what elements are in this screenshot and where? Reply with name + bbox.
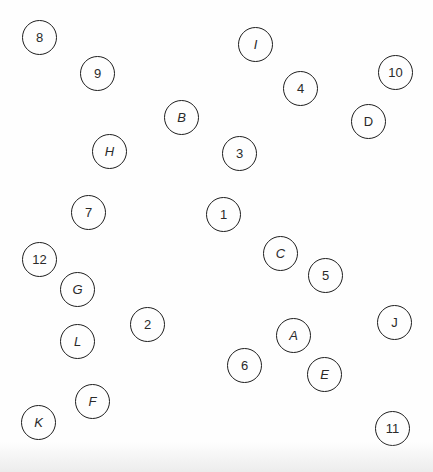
- circle-node-label: 2: [144, 318, 151, 331]
- circle-node-label: C: [276, 247, 285, 260]
- circle-node-label: 11: [386, 422, 400, 435]
- circle-node-label: A: [289, 329, 298, 342]
- circle-node-6[interactable]: 6: [227, 348, 262, 383]
- circle-node-12[interactable]: 12: [22, 242, 57, 277]
- circle-node-label: 8: [36, 31, 43, 44]
- circle-node-label: 12: [32, 253, 46, 266]
- circle-node-label: 9: [94, 67, 101, 80]
- cropped-header-text: [215, 0, 415, 5]
- circle-node-label: 10: [388, 66, 402, 79]
- circle-node-label: I: [254, 38, 258, 51]
- circle-node-d[interactable]: D: [351, 104, 386, 139]
- circle-node-1[interactable]: 1: [206, 197, 241, 232]
- circle-node-label: 1: [220, 208, 227, 221]
- circle-node-9[interactable]: 9: [80, 56, 115, 91]
- circle-node-i[interactable]: I: [238, 27, 273, 62]
- page-bottom-shadow: [0, 442, 433, 472]
- circle-node-7[interactable]: 7: [71, 195, 106, 230]
- circle-node-label: K: [34, 416, 43, 429]
- circle-node-label: 6: [241, 359, 248, 372]
- circle-node-label: G: [72, 283, 82, 296]
- circle-node-label: 7: [85, 206, 92, 219]
- circle-node-c[interactable]: C: [263, 236, 298, 271]
- circle-node-k[interactable]: K: [21, 405, 56, 440]
- circle-node-label: 4: [297, 82, 304, 95]
- circle-node-2[interactable]: 2: [130, 307, 165, 342]
- circle-node-label: 5: [322, 269, 329, 282]
- circle-node-label: J: [391, 316, 398, 329]
- circle-node-4[interactable]: 4: [283, 71, 318, 106]
- circle-node-label: 3: [236, 147, 243, 160]
- circle-node-a[interactable]: A: [276, 318, 311, 353]
- circle-node-label: B: [177, 111, 186, 124]
- circle-node-8[interactable]: 8: [22, 20, 57, 55]
- circle-node-h[interactable]: H: [92, 134, 127, 169]
- circle-node-label: H: [105, 145, 114, 158]
- test-sheet: 89I410BDH371C125GJ2AL6EFK11: [0, 0, 433, 472]
- circle-node-label: D: [364, 115, 373, 128]
- circle-node-g[interactable]: G: [60, 272, 95, 307]
- circle-node-label: L: [74, 335, 81, 348]
- circle-node-5[interactable]: 5: [308, 258, 343, 293]
- circle-node-10[interactable]: 10: [378, 55, 413, 90]
- circle-node-label: E: [320, 368, 329, 381]
- circle-node-f[interactable]: F: [75, 384, 110, 419]
- circle-node-j[interactable]: J: [377, 305, 412, 340]
- circle-node-11[interactable]: 11: [375, 411, 410, 446]
- circle-node-e[interactable]: E: [307, 357, 342, 392]
- circle-node-b[interactable]: B: [164, 100, 199, 135]
- circle-node-3[interactable]: 3: [222, 136, 257, 171]
- circle-node-l[interactable]: L: [60, 324, 95, 359]
- circle-node-label: F: [89, 395, 97, 408]
